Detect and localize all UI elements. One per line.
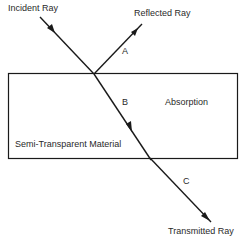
label-c: C (183, 177, 190, 186)
transmitted-ray-label: Transmitted Ray (168, 227, 234, 236)
absorption-label: Absorption (165, 98, 208, 107)
transmitted-ray-line (150, 158, 211, 222)
incident-ray-label: Incident Ray (8, 4, 58, 13)
incident-ray-line (40, 17, 94, 74)
reflected-ray-label: Reflected Ray (134, 9, 191, 18)
label-b: B (122, 98, 128, 107)
light-interaction-diagram (0, 0, 244, 240)
label-a: A (122, 47, 128, 56)
material-label: Semi-Transparent Material (15, 140, 121, 149)
